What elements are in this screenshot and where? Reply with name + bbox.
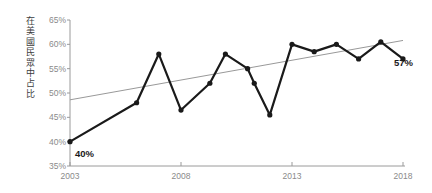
data-point bbox=[312, 49, 317, 54]
annotation-start-value: 40% bbox=[75, 148, 94, 159]
data-point bbox=[134, 100, 139, 105]
x-axis-tick-label: 2013 bbox=[283, 171, 302, 181]
line-chart: 在美國民眾中占比 65%60%55%50%45%40%35% 40% 57% 2… bbox=[0, 0, 432, 193]
x-axis-tick-label: 2003 bbox=[61, 171, 80, 181]
data-point bbox=[207, 81, 212, 86]
x-axis-tick-label: 2018 bbox=[394, 171, 413, 181]
data-point bbox=[178, 107, 183, 112]
data-point bbox=[67, 139, 72, 144]
trend-line bbox=[70, 40, 403, 99]
data-point bbox=[156, 51, 161, 56]
plot-area bbox=[0, 0, 432, 193]
data-point bbox=[356, 56, 361, 61]
data-point bbox=[289, 42, 294, 47]
data-point bbox=[252, 81, 257, 86]
data-point bbox=[378, 39, 383, 44]
data-point bbox=[334, 42, 339, 47]
data-point bbox=[223, 51, 228, 56]
x-axis-tick-label: 2008 bbox=[172, 171, 191, 181]
data-line bbox=[70, 42, 403, 142]
annotation-end-value: 57% bbox=[394, 57, 413, 68]
data-point bbox=[245, 66, 250, 71]
data-point bbox=[267, 112, 272, 117]
